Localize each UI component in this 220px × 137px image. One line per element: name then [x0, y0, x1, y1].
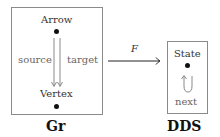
functor-arrow-icon: [108, 58, 160, 65]
diagram-arrows: [0, 0, 220, 137]
next-loop-arrow-icon: [182, 76, 193, 93]
source-arrow-icon: [52, 38, 57, 87]
target-arrow-icon: [58, 38, 63, 87]
